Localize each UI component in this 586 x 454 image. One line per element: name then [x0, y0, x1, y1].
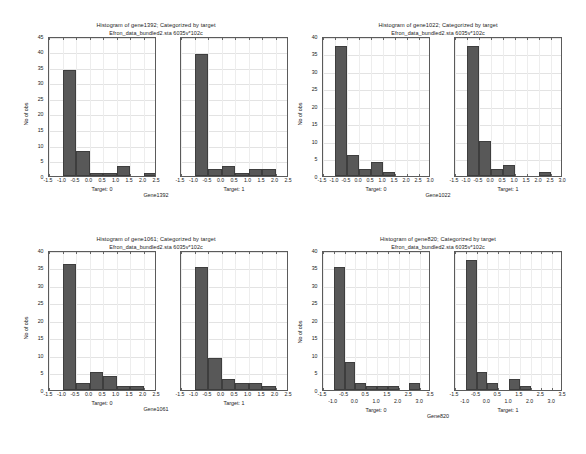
y-tick: 10	[38, 143, 44, 149]
x-tick-label: -1.0	[57, 177, 66, 183]
x-tick-label: 2.0	[139, 391, 146, 397]
histogram-bar	[539, 172, 551, 176]
y-tick: 15	[312, 121, 318, 127]
grid-line-h	[49, 252, 155, 253]
histogram-bar	[479, 141, 491, 176]
x-tick-mark-top	[235, 38, 236, 40]
x-tick-label: 3.0	[416, 398, 423, 404]
x-tick-label: 0.5	[498, 177, 505, 183]
x-tick-mark-top	[388, 252, 389, 254]
plot-area-gene820-target1	[454, 251, 562, 391]
x-tick-mark-top	[335, 38, 336, 40]
grid-line-v	[455, 252, 456, 390]
x-tick-label: -1.5	[318, 391, 327, 397]
x-tick-mark-top	[144, 252, 145, 254]
figure-gene1022: Histogram of gene1022; Categorized by ta…	[296, 22, 580, 198]
histogram-bar	[262, 386, 276, 390]
x-tick-label: 0.5	[98, 391, 105, 397]
y-axis-gene1022-target0: 0510152025303540	[306, 37, 320, 177]
x-tick-label: 3.0	[558, 177, 565, 183]
grid-line-v	[103, 252, 104, 390]
grid-line-v	[383, 38, 384, 176]
y-tick: 30	[38, 283, 44, 289]
grid-line-v	[222, 252, 223, 390]
plot-holder: -1.5-1.0-0.50.00.51.01.52.02.53.03.5Targ…	[322, 251, 430, 413]
histogram-bar	[76, 383, 90, 390]
figure-title: Histogram of gene820; Categorized by tar…	[296, 236, 580, 244]
x-tick-mark-top	[515, 38, 516, 40]
x-tick-label: 0.5	[366, 177, 373, 183]
x-tick-label: -0.5	[342, 177, 351, 183]
x-tick-mark-top	[520, 252, 521, 254]
grid-line-v	[359, 38, 360, 176]
panel-gene820-target0: 0510152025303540-1.5-1.0-0.50.00.51.01.5…	[306, 251, 430, 413]
histogram-bar	[377, 386, 388, 390]
figure-subtitle: Efron_data_bundled2.sta 6035v*102c	[296, 244, 580, 251]
x-tick-mark-bottom	[420, 388, 421, 390]
y-axis-label: No of obs	[22, 37, 31, 192]
x-tick-label: -1.0	[460, 398, 469, 404]
figure-title: Histogram of gene1022; Categorized by ta…	[296, 22, 580, 30]
x-tick-label: -1.0	[57, 391, 66, 397]
x-tick-label: -1.5	[176, 391, 185, 397]
grid-line-v	[539, 38, 540, 176]
grid-line-v	[90, 38, 91, 176]
grid-line-v	[551, 38, 552, 176]
grid-line-v	[76, 252, 77, 390]
x-tick-mark-top	[208, 38, 209, 40]
figure-title: Histogram of gene1392; Categorized by ta…	[22, 22, 290, 30]
grid-line-v	[130, 38, 131, 176]
panel-gene1022-target0: 0510152025303540-1.5-1.0-0.50.00.51.01.5…	[306, 37, 430, 192]
y-tick: 40	[38, 49, 44, 55]
grid-line-v	[388, 252, 389, 390]
figure-gene1061: Histogram of gene1061; Categorized by ta…	[22, 236, 290, 412]
grid-line-v	[527, 38, 528, 176]
x-tick-mark-top	[323, 252, 324, 254]
x-tick-label: -1.0	[189, 391, 198, 397]
grid-line-v	[262, 38, 263, 176]
x-tick-mark-top	[359, 38, 360, 40]
x-tick-label: 0.5	[362, 391, 369, 397]
grid-line-h	[455, 252, 561, 253]
grid-line-h	[181, 38, 287, 39]
panel-row: No of obs0510152025303540-1.5-1.0-0.50.0…	[296, 37, 580, 192]
y-tick: 25	[312, 86, 318, 92]
panel-gene1392-target1: -1.5-1.0-0.50.00.51.01.52.02.5Target: 1	[164, 37, 288, 192]
x-tick-mark-top	[49, 252, 50, 254]
x-tick-mark-top	[383, 38, 384, 40]
x-tick-mark-bottom	[455, 388, 456, 390]
grid-line-v	[355, 252, 356, 390]
x-tick-mark-top	[103, 252, 104, 254]
y-axis-gene820-target1	[438, 251, 452, 391]
x-tick-label: 0.0	[351, 398, 358, 404]
x-tick-mark-top	[117, 38, 118, 40]
x-tick-label: 1.0	[372, 398, 379, 404]
x-tick-mark-top	[117, 252, 118, 254]
grid-line-v	[181, 38, 182, 176]
x-tick-label: -0.5	[203, 391, 212, 397]
x-tick-mark-top	[531, 252, 532, 254]
y-axis-label: No of obs	[296, 37, 305, 192]
x-tick-mark-top	[222, 252, 223, 254]
grid-line-v	[144, 252, 145, 390]
x-tick-mark-top	[76, 252, 77, 254]
x-tick-mark-bottom	[276, 174, 277, 176]
x-tick-mark-bottom	[181, 388, 182, 390]
variable-label: Gene1061	[22, 406, 290, 412]
grid-line-v	[208, 38, 209, 176]
y-tick: 30	[312, 69, 318, 75]
x-tick-mark-bottom	[455, 174, 456, 176]
y-axis-gene1061-target0: 0510152025303540	[32, 251, 46, 391]
plot-area-gene1022-target1	[454, 37, 562, 177]
grid-line-v	[395, 38, 396, 176]
x-tick-label: 2.0	[139, 177, 146, 183]
x-tick-label: -1.0	[189, 177, 198, 183]
grid-line-v	[491, 38, 492, 176]
x-tick-mark-top	[503, 38, 504, 40]
x-tick-mark-top	[334, 252, 335, 254]
grid-line-v	[520, 252, 521, 390]
panel-caption: Target: 1	[180, 186, 288, 192]
y-axis-label-text: No of obs	[298, 103, 304, 126]
histogram-bar	[334, 267, 345, 390]
x-tick-mark-top	[420, 252, 421, 254]
